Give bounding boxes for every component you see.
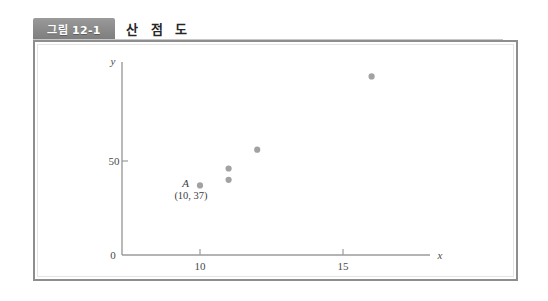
axes-group: yx [110, 55, 443, 261]
data-point [226, 165, 232, 171]
data-point [197, 182, 203, 188]
data-point [369, 73, 375, 79]
y-tick-label-0: 0 [110, 249, 116, 261]
figure-number-label: 그림 12-1 [33, 18, 115, 39]
figure-number-tag: 그림 12-1 [33, 18, 115, 39]
data-point [254, 147, 260, 153]
x-tick-label-10: 10 [195, 260, 207, 272]
x-axis-label: x [437, 249, 443, 261]
annotations-group: A(10, 37) [174, 177, 208, 202]
data-points-group [197, 73, 375, 188]
scatter-plot: yx 0501015 A(10, 37) [33, 40, 518, 281]
data-point [226, 177, 232, 183]
point-annotation-letter: A [181, 177, 189, 189]
y-tick-label-50: 50 [109, 155, 121, 167]
figure-page: 그림 12-1 산 점 도 yx 0501015 A(10, 37) [0, 0, 548, 301]
y-axis-label: y [110, 55, 116, 67]
figure-header: 그림 12-1 산 점 도 [33, 18, 503, 42]
scatter-plot-canvas: yx 0501015 A(10, 37) [33, 40, 518, 281]
point-annotation-coords: (10, 37) [174, 190, 208, 202]
figure-title: 산 점 도 [126, 19, 191, 38]
x-tick-label-15: 15 [338, 260, 350, 272]
